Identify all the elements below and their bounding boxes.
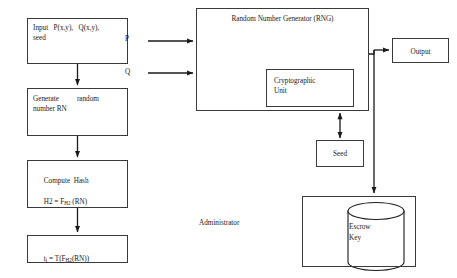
diagram-canvas: Input P(x,y), Q(x,y), seed Generate rand…	[0, 0, 457, 278]
node-input-label: Input P(x,y), Q(x,y), seed	[33, 23, 123, 44]
rng-title: Random Number Generator (RNG)	[197, 14, 368, 24]
node-compute-hash-label: Compute Hash H2 = FH2 (RN)	[33, 166, 123, 218]
ti-mid: = T(F	[47, 255, 65, 263]
node-ti-label: ti = T(FH2(RN))	[33, 244, 123, 275]
cryptographic-unit-label: Cryptographic Unit	[274, 76, 316, 97]
ti-suffix: (RN))	[72, 255, 89, 263]
output-label: Output	[393, 47, 448, 57]
node-generate-random-number[interactable]: Generate random number RN	[27, 88, 128, 136]
seed-label: Seed	[317, 149, 363, 159]
escrow-key-label: Escrow Key	[349, 222, 371, 244]
node-cryptographic-unit[interactable]: Cryptographic Unit	[266, 69, 354, 107]
hash-formula-suffix: (RN)	[71, 198, 88, 206]
node-compute-hash[interactable]: Compute Hash H2 = FH2 (RN)	[27, 160, 128, 208]
input-label-p: P	[125, 35, 129, 43]
administrator-label: Administrator	[199, 219, 239, 227]
input-label-q: Q	[125, 68, 130, 76]
node-generate-label: Generate random number RN	[33, 94, 123, 115]
node-timestamp-function[interactable]: ti = T(FH2(RN))	[27, 235, 128, 263]
node-input[interactable]: Input P(x,y), Q(x,y), seed	[27, 18, 128, 64]
hash-formula-prefix: H2 = F	[44, 198, 64, 206]
hash-line-1: Compute Hash	[44, 177, 89, 185]
edge-rng-trunk	[369, 50, 374, 54]
node-output[interactable]: Output	[392, 38, 449, 63]
node-seed[interactable]: Seed	[316, 140, 364, 167]
